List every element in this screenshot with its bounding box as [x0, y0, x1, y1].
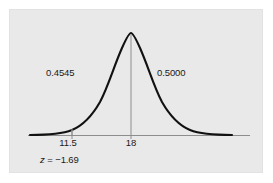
z-score-note: z = −1.69 — [40, 155, 79, 165]
area-label-left: 0.4545 — [46, 68, 74, 78]
z-value: −1.69 — [55, 154, 79, 165]
x-tick-label-18: 18 — [126, 138, 136, 148]
x-tick-label-11-5: 11.5 — [59, 138, 76, 148]
z-equals: = — [45, 154, 56, 165]
area-label-right: 0.5000 — [157, 68, 185, 78]
figure-panel: 0.4545 0.5000 11.5 18 z = −1.69 — [10, 10, 262, 172]
figure-screenshot: 0.4545 0.5000 11.5 18 z = −1.69 — [0, 0, 273, 183]
normal-curve-plot — [10, 10, 262, 172]
